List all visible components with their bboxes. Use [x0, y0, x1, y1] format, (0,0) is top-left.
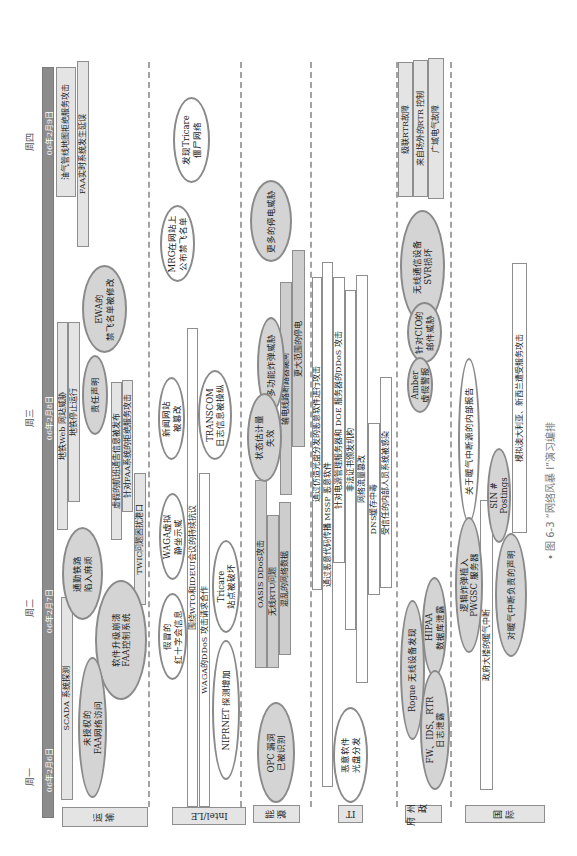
intel-event-bubble: WAGA虚拟 静坐示威	[159, 493, 186, 580]
weekday-label: 周二	[24, 588, 36, 628]
lane-label-international: 国际	[465, 805, 545, 823]
lane-label-text: 国际	[493, 808, 517, 821]
transport-event-bar: SCADA 系统探测	[61, 597, 73, 800]
intel-event-bubble: 假冒的 红十字会信息	[158, 593, 187, 680]
energy-event-bar: 更大范围的停电	[292, 250, 305, 447]
weekday-label: 周四	[24, 122, 36, 162]
intel-event-bubble: Tricare 站点被破坏	[212, 540, 240, 633]
state-event-bubble: FW、IDS、RTR 日志泄露	[420, 670, 450, 790]
state-event-bubble: Amber 虚假警报	[407, 357, 433, 413]
intel-event-bar: 围绕WTO和IDEUI会议的持续抗议	[187, 328, 198, 807]
intel-event-bar: WAGA的DDoS 攻击请求合作	[199, 473, 210, 807]
it-event-bar: 受信任的内部人员系统被感染	[380, 377, 392, 588]
date-label: 06年2月8日	[42, 388, 54, 448]
international-event-bar: 政府大楼的暖气中断	[480, 500, 493, 790]
intel-event-bubble: 发现Tricare 僵尸网络	[173, 97, 210, 183]
it-event-bar: 非法证书颁发机构	[345, 290, 356, 630]
international-event-bubble: 逻辑炸弹植入 PWGSC 服务器	[455, 517, 483, 653]
it-event-bar: 针对电源管理服务器和 DOE 服务器的DDoS 攻击	[333, 277, 345, 563]
international-event-bubble: 对暖气中断负责的声明	[495, 533, 527, 657]
transport-event-bar: 地铁Web 网站威胁	[57, 322, 68, 530]
lane-divider	[240, 62, 242, 807]
energy-event-bar: 无线RTU问题	[267, 515, 279, 668]
energy-event-bubble: 状态估计量 失效	[247, 393, 282, 482]
intel-event-bubble: TRANSCOM 日志信息被操纵	[198, 370, 232, 460]
date-label: 06年2月6日	[42, 740, 54, 800]
lane-label-transport: 运输	[62, 807, 148, 827]
state-event-bar: 来自场外的RTR 控制	[413, 60, 428, 197]
state-event-bubble: HIPAA 数据库泄露	[422, 577, 447, 677]
energy-event-bubble: OPC 漏洞 已被识别	[257, 702, 295, 803]
state-event-bubble: 针对CIO的 邮件威胁	[407, 302, 442, 363]
intel-event-bubble: NIPRNET 探测增加	[212, 640, 240, 780]
lane-label-intel: Intel/LE	[172, 807, 246, 825]
exercise-timeline-figure: 周一 周二 周三 周四 06年2月6日 06年2月7日 06年2月8日 06年2…	[0, 0, 577, 856]
it-event-bar: 通过仿造光盘分发的恶意软件进行攻击	[312, 277, 322, 590]
it-event-bar: 通过恶意代码传播 MSSP 恶意软件	[322, 262, 333, 787]
lane-label-text: 州政府	[406, 801, 441, 827]
lane-label-text: Intel/LE	[191, 811, 228, 821]
date-label: 06年2月9日	[42, 103, 54, 163]
lane-label-text: 运输	[93, 811, 117, 824]
lane-divider	[450, 62, 452, 807]
intel-event-bubble: 新闻网站 被篡改	[158, 377, 185, 460]
it-event-bar: 网络流量篡改	[356, 275, 368, 683]
weekday-label: 周三	[24, 398, 36, 438]
it-event-bar: DNS缓存中毒	[368, 423, 380, 595]
international-event-bar: 模拟澳大利亚、新西兰遭受服务攻击	[512, 263, 527, 533]
transport-event-bubble: 未授权的 FAA网络访问	[78, 657, 107, 798]
lane-divider	[148, 62, 150, 807]
transport-event-bubble: EWA的 禁飞名单被修改	[82, 265, 127, 353]
figure-caption: • 图 6-3 “网络风暴 I”演习编排	[544, 285, 558, 560]
transport-event-bar: 油气管线地图拒绝服务攻击	[56, 67, 76, 197]
transport-event-bubble: 责任声明	[82, 355, 108, 435]
intel-event-bubble: MRG在网站上 公布禁飞名单	[160, 205, 195, 282]
state-event-bar: 广域电气故障	[428, 58, 444, 199]
energy-event-bubble: 更多的停电威胁	[250, 180, 292, 262]
lane-label-text: 能源	[265, 808, 289, 821]
energy-event-bar: OASIS DDoS攻击	[255, 480, 267, 668]
transport-event-bar: FAA实时系统发生延误	[77, 61, 89, 247]
transport-event-bar: TWIC问题困扰港口	[134, 473, 146, 605]
transport-event-bar: 虚假的航班通告信息被发布	[111, 382, 122, 540]
lane-label-state: 州政府	[405, 805, 442, 823]
lane-label-energy: 能源	[253, 805, 300, 823]
it-event-bubble: 恶意软件 光盘分发	[333, 707, 368, 803]
international-event-bubble: SIN # Postings	[487, 448, 511, 543]
weekday-label: 周一	[24, 757, 36, 797]
energy-event-bar: 混乱的网络数据	[279, 502, 291, 655]
lane-label-text: IT	[346, 809, 356, 819]
lane-label-it: IT	[338, 805, 363, 823]
transport-event-bar: 针对FAA系统的拒绝服务攻击	[122, 380, 133, 512]
date-label: 06年2月7日	[42, 581, 54, 641]
international-event-bubble: 关于暖气中断源的内部报告	[458, 358, 480, 523]
transport-event-bar: 地铁停止运行	[68, 322, 80, 502]
state-event-bar: 级联RTR故障	[398, 62, 413, 197]
transport-event-bubble: 通勤铁路 陷入麻烦	[62, 527, 103, 620]
